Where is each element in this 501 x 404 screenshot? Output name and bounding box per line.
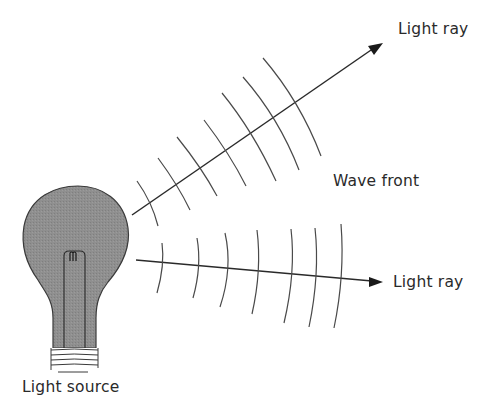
lower-light-ray <box>136 260 383 287</box>
light-bulb-icon <box>23 186 128 374</box>
bulb-base <box>51 348 98 374</box>
upper-light-ray-label: Light ray <box>398 20 468 38</box>
upper-wave-fronts <box>137 58 321 226</box>
arrowhead-icon <box>368 43 383 55</box>
wave-front-label: Wave front <box>333 172 419 190</box>
light-source-label: Light source <box>22 378 119 396</box>
diagram-canvas <box>0 0 501 404</box>
lower-light-ray-label: Light ray <box>393 273 463 291</box>
arrowhead-icon <box>369 277 383 287</box>
